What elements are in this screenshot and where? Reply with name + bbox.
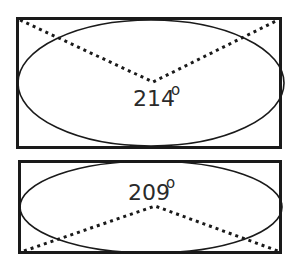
angle-diagrams: 214 o 209 o <box>0 0 300 270</box>
bottom-angle-rays <box>24 206 278 251</box>
bottom-diagram: 209 o <box>20 161 283 253</box>
top-angle-label: 214 <box>133 86 175 111</box>
bottom-degree-symbol: o <box>166 174 175 192</box>
top-angle-rays <box>20 20 278 82</box>
top-diagram: 214 o <box>18 19 285 148</box>
bottom-angle-label: 209 <box>128 180 170 205</box>
top-degree-symbol: o <box>171 81 180 99</box>
